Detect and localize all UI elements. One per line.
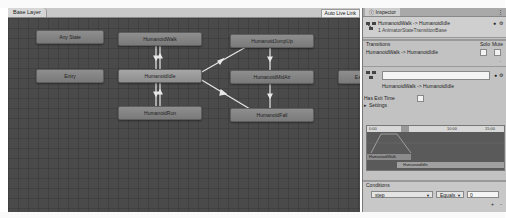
transition-icon <box>366 70 376 80</box>
solo-checkbox[interactable] <box>480 49 487 56</box>
state-humanoid-walk[interactable]: HumanoidWalk <box>118 32 202 46</box>
state-any-state[interactable]: Any State <box>36 30 104 44</box>
state-exit[interactable]: Exit <box>338 70 360 84</box>
condition-mode-dropdown[interactable]: Equals ▼ <box>436 191 464 198</box>
inspector-tab[interactable]: ⓘ Inspector <box>365 8 400 16</box>
dropdown-arrow-icon: ▼ <box>426 192 430 199</box>
state-humanoid-jump-up[interactable]: HumanoidJumpUp <box>230 34 314 48</box>
inspector-tab-bar: ⓘ Inspector ⋮ <box>363 8 506 17</box>
remove-transition-button[interactable]: - <box>500 57 501 65</box>
condition-parameter-dropdown[interactable]: step ▼ <box>371 191 433 198</box>
info-icon: ⓘ <box>369 9 374 15</box>
list-footer: - <box>363 57 506 64</box>
inspector-header: HumanoidWalk -> HumanoidIdle 1 AnimatorS… <box>363 17 506 38</box>
transition-icon <box>366 21 376 31</box>
transition-detail-header: ● ⚙ <box>363 66 506 83</box>
state-entry[interactable]: Entry <box>36 69 104 83</box>
help-icon[interactable]: ● <box>493 20 496 26</box>
mute-checkbox[interactable] <box>494 49 501 56</box>
bottom-strip <box>0 212 505 218</box>
animator-graph[interactable]: Base Layer Auto Live Link <box>8 8 360 212</box>
remove-condition-button[interactable]: - <box>500 201 502 207</box>
blend-curve <box>367 132 504 154</box>
conditions-header: Conditions <box>363 180 506 182</box>
state-humanoid-fall[interactable]: HumanoidFall <box>230 108 314 122</box>
add-condition-button[interactable]: + <box>491 201 494 207</box>
transitions-header: Transitions Solo Mute <box>363 39 506 41</box>
header-title: HumanoidWalk -> HumanoidIdle <box>378 20 450 26</box>
inspector-panel: ⓘ Inspector ⋮ HumanoidWalk -> HumanoidId… <box>362 8 506 212</box>
menu-icon[interactable]: ⋮ <box>498 8 503 16</box>
condition-value-input[interactable]: 0 <box>467 191 499 198</box>
state-humanoid-mid-air[interactable]: HumanoidMidAir <box>230 70 314 84</box>
clip-a-bar[interactable]: HumanoidWalk <box>367 154 411 160</box>
settings-icon[interactable]: ⚙ <box>499 71 503 79</box>
foldout-arrow-icon: ▸ <box>364 101 367 109</box>
state-humanoid-run[interactable]: HumanoidRun <box>118 106 202 120</box>
state-humanoid-idle[interactable]: HumanoidIdle <box>118 69 202 83</box>
transition-timeline[interactable]: 0:00 10:00 15:00 HumanoidWalk HumanoidId… <box>366 125 505 171</box>
header-subtitle: 1 AnimatorStateTransitionBase <box>378 27 447 33</box>
conditions-section: Conditions step ▼ Equals ▼ 0 + - <box>363 180 506 212</box>
transition-name-input[interactable] <box>382 71 490 80</box>
has-exit-time-checkbox[interactable] <box>417 95 424 102</box>
help-icon[interactable]: ● <box>494 71 497 79</box>
clip-b-bar[interactable]: HumanoidIdle <box>397 162 504 168</box>
mute-label: Mute <box>492 40 503 48</box>
dropdown-arrow-icon: ▼ <box>457 192 461 199</box>
top-strip <box>0 0 505 8</box>
settings-icon[interactable]: ⚙ <box>499 20 503 26</box>
solo-label: Solo <box>480 40 490 48</box>
